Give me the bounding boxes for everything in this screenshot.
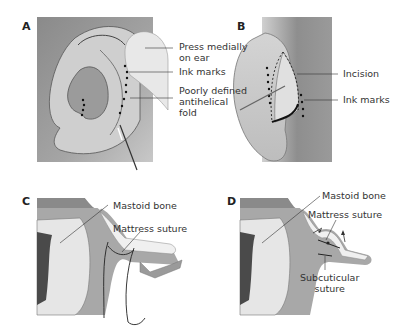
label-mattress-suture-d: Mattress suture <box>308 209 382 220</box>
panel-a-illustration <box>37 17 173 170</box>
label-line: on ear <box>179 52 248 63</box>
label-press-medially: Press medially on ear <box>179 41 248 63</box>
label-line: fold <box>179 107 247 118</box>
panel-letter-a: A <box>22 20 31 33</box>
panel-b-illustration <box>234 17 338 162</box>
label-mattress-suture-c: Mattress suture <box>113 223 187 234</box>
label-subcuticular-suture: Subcuticular suture <box>300 272 359 294</box>
label-mastoid-bone-d: Mastoid bone <box>322 190 386 201</box>
label-ink-marks-b: Ink marks <box>343 94 390 105</box>
label-mastoid-bone-c: Mastoid bone <box>113 200 177 211</box>
panel-letter-b: B <box>237 20 245 33</box>
panel-letter-c: C <box>22 195 30 208</box>
label-line: Press medially <box>179 41 248 52</box>
label-ink-marks-a: Ink marks <box>179 66 226 77</box>
panel-letter-d: D <box>227 195 236 208</box>
label-line: Subcuticular <box>300 272 359 283</box>
label-incision: Incision <box>343 68 379 79</box>
label-antihelical-fold: Poorly defined antihelical fold <box>179 85 247 118</box>
label-line: suture <box>300 283 359 294</box>
panel-c-illustration <box>37 193 182 325</box>
label-line: Poorly defined <box>179 85 247 96</box>
label-line: antihelical <box>179 96 247 107</box>
